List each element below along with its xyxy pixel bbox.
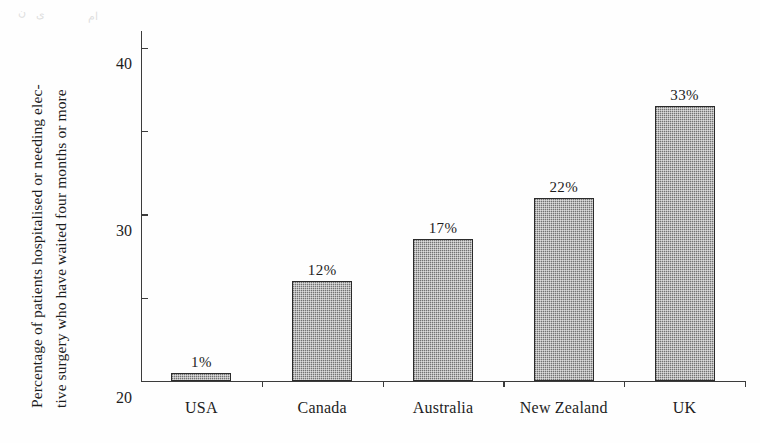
bar-canada: 12% [292,281,352,381]
x-axis-tick-mark [262,381,263,387]
x-axis-tick-mark [503,381,504,387]
bar-value-label: 12% [308,262,337,279]
y-axis-tick-label: 30 [116,222,132,240]
bar-chart-figure: ن ی ام Percentage of patients hospitalis… [0,0,760,443]
plot-area: 010203040 1%12%17%22%33% USACanadaAustra… [141,31,745,381]
y-axis-tick-label: 40 [116,55,132,73]
category-label-usa: USA [185,399,218,417]
category-label-new-zealand: New Zealand [520,399,608,417]
y-axis-label: Percentage of patients hospitalised or n… [0,0,120,443]
category-label-australia: Australia [413,399,473,417]
bar-value-label: 33% [670,87,699,104]
bar-uk: 33% [655,106,715,381]
y-axis-tick-mark: 10 [141,298,148,299]
bar-new-zealand: 22% [534,198,594,381]
y-axis-label-line-1: Percentage of patients hospitalised or n… [28,84,46,408]
category-label-canada: Canada [298,399,347,417]
x-axis-tick-mark [624,381,625,387]
y-axis-label-line-2: tive surgery who have waited four months… [52,89,70,408]
y-axis-tick-mark: 20 [141,214,148,215]
category-label-uk: UK [673,399,697,417]
y-axis-tick-label: 20 [116,388,132,406]
y-axis-tick-mark: 40 [141,48,148,49]
x-axis-tick-mark [745,381,746,387]
bar-usa: 1% [171,373,231,381]
x-axis-line [141,381,745,382]
bar-australia: 17% [413,239,473,381]
bar-value-label: 1% [191,354,212,371]
x-axis-tick-mark [383,381,384,387]
y-axis-tick-mark: 30 [141,131,148,132]
y-axis-line [141,31,142,381]
y-axis-tick-mark: 0 [141,381,148,382]
bar-value-label: 17% [429,220,458,237]
bar-value-label: 22% [549,179,578,196]
